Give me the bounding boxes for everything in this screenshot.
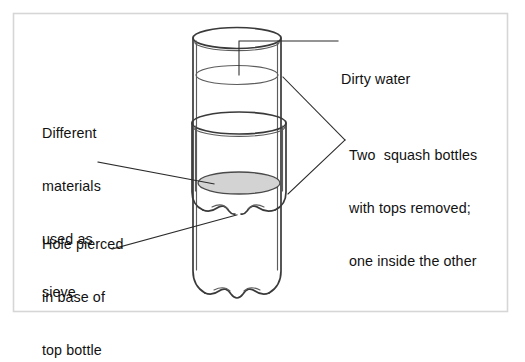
- label-hole-pierced-line-2: in base of: [42, 289, 123, 307]
- label-hole-pierced-line-3: top bottle: [42, 342, 123, 360]
- label-dirty-water-line-1: Dirty water: [341, 71, 410, 89]
- label-different-materials-line-2: materials: [42, 178, 101, 196]
- label-two-bottles: Two squash bottles with tops removed; on…: [349, 112, 477, 306]
- label-different-materials-line-1: Different: [42, 125, 101, 143]
- label-two-bottles-line-2: with tops removed;: [349, 200, 477, 218]
- label-hole-pierced-line-1: Hole pierced: [42, 236, 123, 254]
- label-dirty-water: Dirty water: [341, 36, 410, 124]
- label-hole-pierced: Hole pierced in base of top bottle: [42, 201, 123, 362]
- label-two-bottles-line-3: one inside the other: [349, 253, 477, 271]
- label-two-bottles-line-1: Two squash bottles: [349, 147, 477, 165]
